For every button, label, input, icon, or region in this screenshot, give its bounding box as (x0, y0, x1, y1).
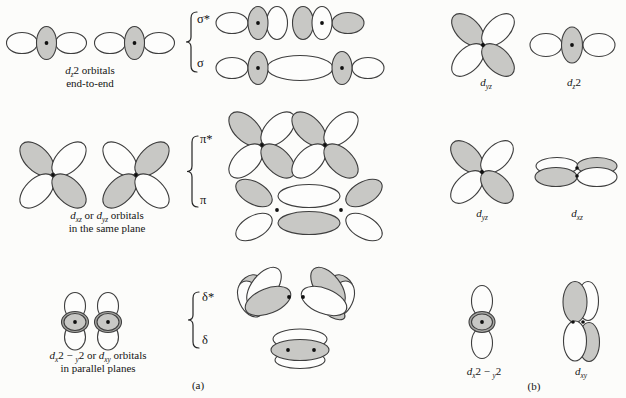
nucleus-dot (256, 66, 260, 70)
orbital-lobe (577, 168, 617, 187)
orbital-overlap-figure: σ* σ π* π δ* δ dz2 orbitals end-to-end d… (0, 0, 626, 398)
sigma-brace (186, 12, 197, 72)
nucleus-dot (287, 295, 291, 299)
nucleus-dot (260, 143, 264, 147)
pi-star-mo-diagram (223, 106, 365, 185)
nucleus-dot (570, 43, 574, 47)
orbital-label-b-row2-dxz: dxz (571, 207, 583, 220)
mo-label-delta: δ (202, 334, 208, 347)
bonding-overlap-lobe (278, 185, 340, 208)
orbital-label-b-row3-dx2y2: dx2 − y2 (467, 365, 502, 378)
nucleus-dot (480, 170, 484, 174)
orbital-label-b-row1-dyz: dyz (480, 76, 492, 89)
nucleus-dot (312, 348, 316, 352)
orbital-lobe (352, 58, 384, 79)
nucleus-dot (575, 174, 579, 178)
panel-a-label: (a) (192, 379, 204, 392)
orbital-lobe (7, 33, 38, 54)
delta-star-mo-diagram (232, 261, 360, 323)
b-row3-dx2y2-dxy (469, 282, 600, 362)
nucleus-dot (51, 173, 55, 177)
bonding-overlap-lobe (271, 340, 329, 361)
pi-brace (187, 136, 198, 207)
caption-pi-line1: dxz or dyz orbitals (69, 209, 146, 222)
nucleus-dot (320, 21, 324, 25)
caption-delta-line1: dx2 − y2 or dxy orbitals (49, 349, 146, 362)
orbital-lobe (535, 168, 577, 187)
nucleus-dot (571, 320, 575, 324)
caption-pi-example: dxz or dyz orbitals in the same plane (69, 209, 146, 235)
orbital-lobe (332, 13, 364, 34)
mo-label-delta-star: δ* (202, 291, 214, 304)
caption-sigma-line1: dz2 orbitals (65, 64, 115, 77)
orbital-lobe (216, 13, 248, 34)
orbital-lobe (216, 58, 248, 79)
nucleus-dot (133, 41, 137, 45)
orbital-lobe (341, 173, 387, 212)
orbital-lobe (564, 321, 587, 361)
bonding-overlap-lobe (278, 212, 340, 235)
orbital-lobe (56, 33, 87, 54)
b-row1-dyz-dz2 (446, 8, 615, 83)
nucleus-dot (340, 66, 344, 70)
caption-sigma-example: dz2 orbitals end-to-end (65, 64, 115, 90)
nucleus-dot (481, 43, 485, 47)
orbital-lobe (341, 207, 387, 246)
delta-mo-diagram (271, 329, 329, 369)
orbital-lobe (144, 33, 175, 54)
sigma-star-mo-diagram (216, 7, 364, 40)
orbital-label-b-row2-dyz: dyz (476, 207, 488, 220)
orbital-lobe (95, 33, 126, 54)
mo-label-pi: π (200, 194, 206, 207)
orbital-lobe (231, 207, 277, 246)
nucleus-dot (575, 166, 579, 170)
nucleus-dot (581, 320, 585, 324)
nucleus-dot (301, 295, 305, 299)
nucleus-dot (480, 320, 484, 324)
caption-delta-line2: in parallel planes (49, 362, 146, 375)
orbital-label-b-row3-dxy: dxy (575, 365, 587, 378)
orbital-lobe (293, 7, 314, 40)
nucleus-dot (323, 143, 327, 147)
caption-pi-line2: in the same plane (69, 222, 146, 235)
delta-brace (188, 292, 199, 348)
orbital-label-b-row1-dz2: dz2 (567, 76, 581, 89)
pi-mo-diagram (231, 173, 387, 246)
nucleus-dot (134, 173, 138, 177)
nucleus-dot (286, 348, 290, 352)
panel-b-label: (b) (528, 380, 541, 393)
nucleus-dot (256, 21, 260, 25)
nucleus-dot (275, 208, 279, 212)
dz2-pair-end-to-end (7, 27, 175, 60)
mo-label-sigma-star: σ* (197, 13, 210, 26)
orbital-diagram-canvas (0, 0, 626, 398)
bonding-overlap-lobe (267, 56, 333, 81)
mo-label-sigma: σ (197, 57, 204, 70)
dxz-pair-same-plane (14, 136, 176, 215)
mo-label-pi-star: π* (200, 133, 213, 146)
sigma-mo-diagram (216, 52, 384, 85)
orbital-lobe (267, 7, 288, 40)
caption-sigma-line2: end-to-end (65, 77, 115, 90)
orbital-lobe (530, 34, 562, 57)
orbital-lobe (583, 34, 615, 57)
nucleus-dot (73, 320, 77, 324)
orbital-lobe (231, 173, 277, 212)
dx2y2-pair-parallel-planes (62, 293, 122, 351)
nucleus-dot (106, 320, 110, 324)
orbital-lobe (563, 282, 587, 323)
nucleus-dot (339, 208, 343, 212)
b-row2-dyz-dxz (445, 135, 617, 210)
caption-delta-example: dx2 − y2 or dxy orbitals in parallel pla… (49, 349, 146, 375)
nucleus-dot (45, 41, 49, 45)
